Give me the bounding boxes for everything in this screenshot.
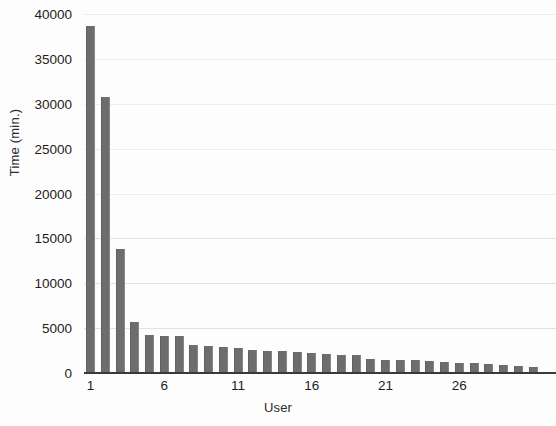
bar [263,351,272,373]
x-tick-label: 6 [160,378,168,393]
y-axis-tick-labels: 4000035000300002500020000150001000050000 [0,0,80,426]
plot-area [84,14,556,373]
bar [322,354,331,373]
y-tick-label: 10000 [34,276,72,291]
bar [160,336,169,373]
bar [130,322,139,373]
bar-chart-figure: Time (min.) 4000035000300002500020000150… [0,0,556,426]
bar [234,348,243,373]
y-tick-label: 30000 [34,96,72,111]
x-axis-title: User [0,400,556,415]
x-tick-label: 21 [378,378,393,393]
x-tick-label: 11 [231,378,245,393]
x-tick-label: 1 [87,378,95,393]
bar [366,359,375,373]
y-tick-label: 5000 [42,321,72,336]
bar [352,355,361,373]
bar-series [84,14,556,373]
bar [101,97,110,373]
y-tick-label: 15000 [34,231,72,246]
bar [145,335,154,373]
bar [307,353,316,373]
bar [219,347,228,373]
bar [175,336,184,373]
y-tick-label: 25000 [34,141,72,156]
y-tick-label: 35000 [34,51,72,66]
bar [116,249,125,373]
bar [293,352,302,373]
bar [204,346,213,373]
bar [278,351,287,373]
bar [189,345,198,373]
y-tick-label: 40000 [34,7,72,22]
bar [337,355,346,373]
bar [86,26,95,373]
y-tick-label: 0 [64,366,72,381]
x-axis-line [84,372,556,374]
x-axis-tick-labels: 1611162126 [84,378,556,398]
x-tick-label: 16 [304,378,319,393]
bar [248,350,257,373]
x-tick-label: 26 [452,378,467,393]
bar [381,360,390,373]
y-tick-label: 20000 [34,186,72,201]
